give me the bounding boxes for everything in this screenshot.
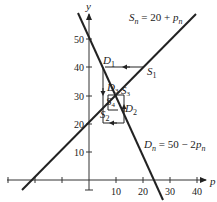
- label-S3: S3: [121, 84, 131, 98]
- x-tick-40: 40: [192, 186, 202, 197]
- demand-line: [78, 13, 163, 200]
- x-tick-20: 20: [138, 186, 148, 197]
- label-D2: D2: [124, 102, 137, 117]
- supply-equation: Sn = 20 + pn: [129, 11, 182, 26]
- y-tick-30: 30: [74, 91, 84, 102]
- label-D3: D3: [106, 81, 119, 95]
- y-tick-40: 40: [74, 62, 84, 73]
- y-tick-10: 10: [74, 147, 84, 158]
- x-axis: 10 20 30 40 p: [7, 175, 216, 197]
- y-axis-label: y: [85, 0, 91, 12]
- y-tick-50: 50: [74, 34, 84, 45]
- x-axis-label: p: [209, 175, 216, 187]
- demand-equation: Dn = 50 − 2pn: [143, 138, 205, 153]
- y-axis: 10 20 30 40 50 y: [74, 0, 93, 190]
- x-tick-10: 10: [111, 186, 121, 197]
- label-S1: S1: [147, 65, 157, 80]
- cobweb-diagram: 10 20 30 40 p 10 20 30 40 50 y: [0, 0, 217, 202]
- x-tick-30: 30: [165, 186, 175, 197]
